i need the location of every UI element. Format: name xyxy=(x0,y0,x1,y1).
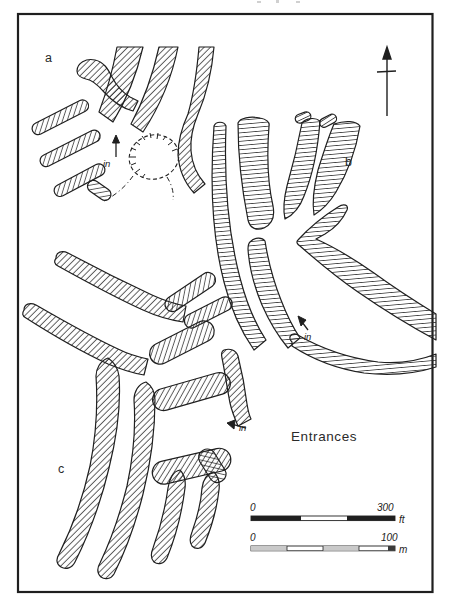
scale-bar-m: 0 100 m xyxy=(250,532,407,555)
passage-band xyxy=(30,98,91,137)
scale-ft-unit: ft xyxy=(399,514,406,525)
passage-band xyxy=(57,358,120,568)
passage-band xyxy=(190,472,219,548)
entrance-label-c: in xyxy=(239,422,246,433)
hachure-tick xyxy=(150,133,151,138)
entrance-label-a: in xyxy=(103,158,110,169)
hachure-tick xyxy=(136,142,140,145)
scale-m-start: 0 xyxy=(250,532,256,543)
scan-mark xyxy=(257,1,261,3)
entrance-arrow-head xyxy=(298,316,306,326)
cave-map-b xyxy=(212,111,436,375)
entrance-arrow-a xyxy=(113,135,120,157)
scale-bar-ft: 0 300 ft xyxy=(250,502,406,525)
entrance-arrow-head xyxy=(227,420,235,429)
panel-label-a: a xyxy=(45,51,52,65)
depression-dashdot-tail xyxy=(167,177,173,200)
panel-label-c: c xyxy=(58,462,64,476)
north-arrow-icon xyxy=(377,47,396,116)
cave-map-c xyxy=(23,252,251,579)
scale-m-segment xyxy=(388,546,395,551)
scale-m-segment xyxy=(323,546,359,551)
scan-mark xyxy=(276,0,279,3)
scale-m-unit: m xyxy=(399,544,407,555)
scale-m-segment xyxy=(251,546,287,551)
scan-mark xyxy=(296,1,300,3)
passage-band xyxy=(150,370,233,413)
passage-band xyxy=(55,252,186,322)
hachure-tick xyxy=(131,163,136,165)
north-arrow-head xyxy=(383,47,391,59)
passage-band xyxy=(151,470,185,564)
scale-ft-end: 300 xyxy=(377,502,394,513)
passage-band xyxy=(85,178,113,203)
passage-band xyxy=(23,304,148,375)
cave-entrances-figure: a b c in in in Entrances 0 300 ft 0 100 … xyxy=(0,0,451,611)
passage-band xyxy=(38,128,102,169)
scale-ft-start: 0 xyxy=(250,502,256,513)
scale-m-end: 100 xyxy=(381,532,398,543)
entrance-arrow-head xyxy=(113,135,120,143)
figure-caption: Entrances xyxy=(291,429,357,444)
passage-band xyxy=(290,334,436,374)
entrance-label-b: in xyxy=(304,331,311,342)
cave-map-a xyxy=(30,47,214,203)
hachure-tick xyxy=(172,149,177,151)
passage-band xyxy=(178,47,214,193)
scale-ft-segment xyxy=(251,516,301,521)
figure-page: a b c in in in Entrances 0 300 ft 0 100 … xyxy=(0,0,451,611)
scale-ft-segment xyxy=(347,516,395,521)
panel-label-b: b xyxy=(345,155,352,169)
passage-band xyxy=(313,122,360,215)
page-scan-artifacts xyxy=(257,0,300,3)
hachure-tick xyxy=(136,169,140,172)
passage-band xyxy=(297,205,436,340)
north-arrow-crossbar xyxy=(377,71,396,72)
entrance-arrow-b xyxy=(298,316,308,330)
hachure-tick xyxy=(168,142,172,145)
passage-band xyxy=(238,117,274,229)
passage-band xyxy=(146,317,218,367)
hachure-tick xyxy=(157,133,158,139)
